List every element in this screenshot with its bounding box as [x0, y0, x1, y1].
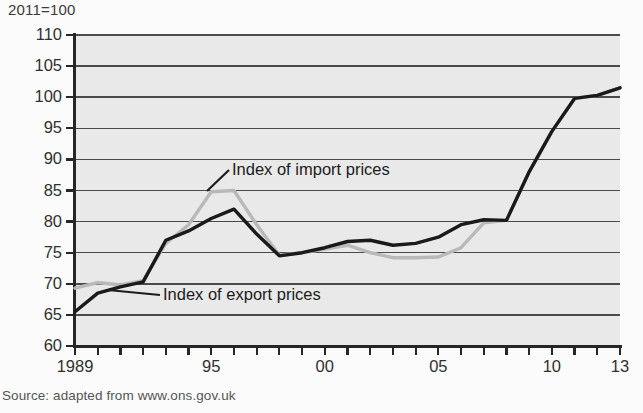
import-prices-annotation: Index of import prices — [232, 160, 390, 179]
export-prices-line — [75, 88, 620, 312]
export-prices-annotation: Index of export prices — [163, 285, 321, 304]
chart-figure: 2011=100 1101051009590858075706560 19899… — [0, 0, 643, 413]
export-label-leader-line — [108, 290, 160, 295]
import-label-leader-line — [207, 170, 229, 191]
source-note: Source: adapted from www.ons.gov.uk — [2, 388, 236, 403]
series-lines — [0, 0, 643, 413]
